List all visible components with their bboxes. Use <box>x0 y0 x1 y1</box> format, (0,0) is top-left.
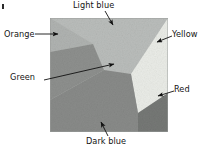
label-dark-blue: Dark blue <box>86 137 126 146</box>
label-green: Green <box>10 73 35 82</box>
label-yellow: Yellow <box>172 30 198 39</box>
label-light-blue: Light blue <box>73 1 114 10</box>
figure-root: Light blue Orange Yellow Green Red Dark … <box>0 0 208 150</box>
label-orange: Orange <box>4 30 35 39</box>
label-red: Red <box>174 85 190 94</box>
